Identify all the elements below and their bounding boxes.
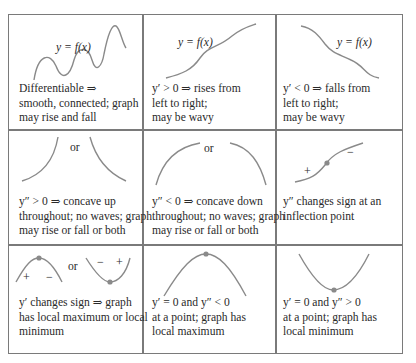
or-label: or — [70, 141, 80, 154]
cell-local-min: y′ = 0 and y″ > 0 at a point; graph has … — [275, 244, 403, 354]
caption-line: smooth, connected; graph — [19, 97, 138, 112]
sign-right-positive: + — [116, 255, 123, 270]
caption: y″ > 0 ⇒ concave up throughout; no waves… — [19, 195, 152, 239]
caption-line: may be wavy — [152, 111, 241, 126]
local-min-point — [107, 279, 112, 284]
caption-line: y′ changes sign ⇒ graph — [19, 296, 148, 311]
caption-line: throughout; no waves; graph — [19, 210, 152, 225]
caption-line: local minimum — [283, 325, 377, 340]
graph-label: y = f(x) — [56, 41, 91, 54]
caption-line: at a point; graph has — [152, 311, 246, 326]
sign-right-negative: − — [97, 255, 104, 270]
cell-inflection: + − y″ changes sign at an inflection poi… — [275, 129, 403, 244]
caption-line: inflection point — [283, 210, 381, 225]
caption: y′ > 0 ⇒ rises from left to right; may b… — [152, 82, 241, 126]
inflection-point — [324, 160, 329, 165]
sign-positive: + — [304, 164, 311, 179]
graph-label: y = f(x) — [337, 36, 372, 49]
caption-line: y″ changes sign at an — [283, 195, 381, 210]
caption: y′ < 0 ⇒ falls from left to right; may b… — [283, 82, 370, 126]
caption: y′ = 0 and y″ < 0 at a point; graph has … — [152, 296, 246, 340]
cell-concave-up: or y″ > 0 ⇒ concave up throughout; no wa… — [8, 129, 142, 244]
inflection-curve-graph — [275, 129, 403, 244]
cell-local-max: y′ = 0 and y″ < 0 at a point; graph has … — [142, 244, 275, 354]
caption-line: y′ = 0 and y″ < 0 — [152, 296, 246, 311]
caption: y′ changes sign ⇒ graph has local maximu… — [19, 296, 148, 340]
caption-line: Differentiable ⇒ — [19, 82, 138, 97]
caption-line: y″ < 0 ⇒ concave down — [152, 195, 285, 210]
caption-line: has local maximum or local — [19, 311, 148, 326]
caption-line: y″ > 0 ⇒ concave up — [19, 195, 152, 210]
caption-line: throughout; no waves; graph — [152, 210, 285, 225]
caption: y″ changes sign at an inflection point — [283, 195, 381, 224]
caption-line: y′ < 0 ⇒ falls from — [283, 82, 370, 97]
caption-line: may rise or fall or both — [19, 224, 152, 239]
caption-line: left to right; — [152, 97, 241, 112]
caption: y″ < 0 ⇒ concave down throughout; no wav… — [152, 195, 285, 239]
caption-line: at a point; graph has — [283, 311, 377, 326]
local-max-point — [203, 251, 208, 256]
caption: Differentiable ⇒ smooth, connected; grap… — [19, 82, 138, 126]
sign-negative: − — [347, 145, 354, 160]
caption-line: may be wavy — [283, 111, 370, 126]
caption-line: may rise or fall or both — [152, 224, 285, 239]
caption-line: y′ > 0 ⇒ rises from — [152, 82, 241, 97]
sign-left-positive: + — [23, 270, 30, 285]
caption-line: local maximum — [152, 325, 246, 340]
local-min-point — [331, 287, 336, 292]
caption-line: left to right; — [283, 97, 370, 112]
graph-label: y = f(x) — [178, 36, 213, 49]
cell-differentiable: y = f(x) Differentiable ⇒ smooth, connec… — [8, 14, 142, 129]
local-max-point — [36, 255, 41, 260]
or-label: or — [68, 260, 78, 273]
caption-line: minimum — [19, 325, 148, 340]
caption-line: y′ = 0 and y″ > 0 — [283, 296, 377, 311]
or-label: or — [204, 142, 214, 155]
cell-local-extremum: + − or − + y′ changes sign ⇒ graph has l… — [8, 244, 142, 354]
cell-increasing: y = f(x) y′ > 0 ⇒ rises from left to rig… — [142, 14, 275, 129]
cell-concave-down: or y″ < 0 ⇒ concave down throughout; no … — [142, 129, 275, 244]
caption: y′ = 0 and y″ > 0 at a point; graph has … — [283, 296, 377, 340]
cell-decreasing: y = f(x) y′ < 0 ⇒ falls from left to rig… — [275, 14, 403, 129]
caption-line: may rise and fall — [19, 111, 138, 126]
sign-left-negative: − — [46, 270, 53, 285]
